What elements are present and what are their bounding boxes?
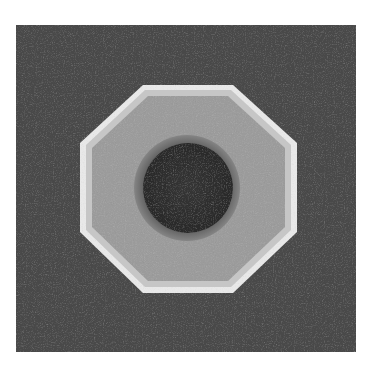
photo [0, 0, 377, 370]
dark-core [143, 143, 233, 233]
